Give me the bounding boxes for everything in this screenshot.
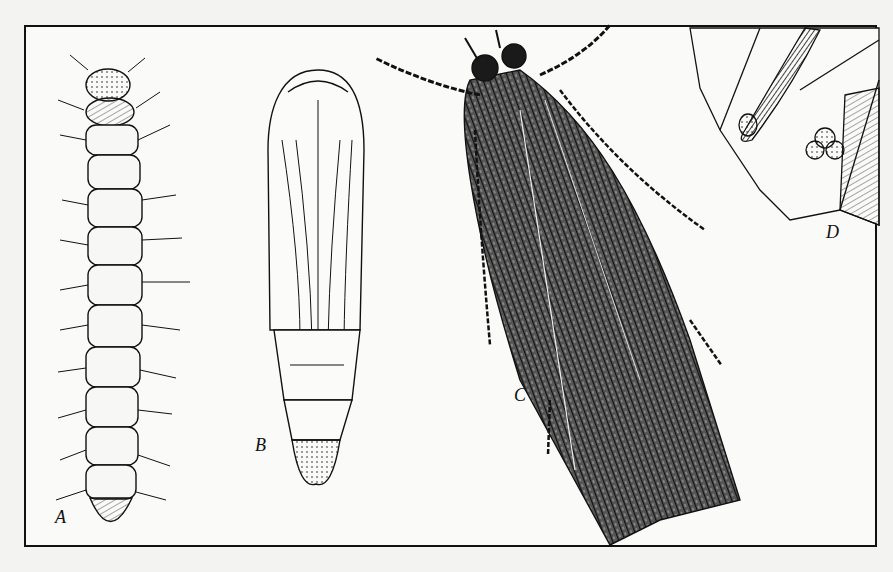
label-b: B [255, 435, 266, 456]
label-c: C [514, 385, 526, 406]
engraving-plate: A B C D [0, 0, 893, 572]
pupa-figure [268, 70, 364, 485]
engraving-illustration [0, 0, 893, 572]
label-a: A [55, 507, 66, 528]
leaf-eggs-figure [690, 28, 879, 225]
larva-figure [56, 55, 190, 522]
label-d: D [826, 222, 839, 243]
moth-figure [375, 25, 740, 545]
